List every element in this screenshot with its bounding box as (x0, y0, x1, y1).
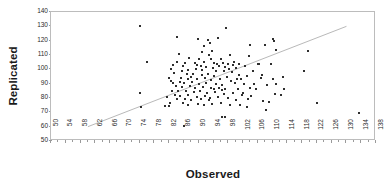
x-tick-mark (345, 140, 346, 143)
x-minor-tick-mark (323, 140, 324, 142)
x-tick-mark (50, 140, 51, 143)
x-tick-mark (198, 140, 199, 143)
x-tick-mark (360, 140, 361, 143)
x-minor-tick-mark (249, 140, 250, 142)
scatter-chart: Replicated 5060708090100110120130140 505… (0, 0, 392, 191)
x-minor-tick-mark (87, 140, 88, 142)
x-minor-tick-mark (190, 140, 191, 142)
x-tick-mark (375, 140, 376, 143)
x-axis-ticks: 5054586266707478828690949810210611011411… (0, 0, 392, 191)
x-minor-tick-mark (368, 140, 369, 142)
x-tick-mark (242, 140, 243, 143)
x-axis-title: Observed (50, 168, 376, 180)
x-minor-tick-mark (205, 140, 206, 142)
x-tick-mark (94, 140, 95, 143)
x-tick-mark (183, 140, 184, 143)
x-tick-label: 138 (378, 119, 385, 143)
x-tick-mark (124, 140, 125, 143)
x-minor-tick-mark (102, 140, 103, 142)
x-tick-mark (316, 140, 317, 143)
x-tick-mark (153, 140, 154, 143)
x-minor-tick-mark (176, 140, 177, 142)
x-minor-tick-mark (72, 140, 73, 142)
x-tick-mark (272, 140, 273, 143)
x-minor-tick-mark (353, 140, 354, 142)
x-tick-mark (139, 140, 140, 143)
x-minor-tick-mark (161, 140, 162, 142)
x-tick-mark (331, 140, 332, 143)
x-tick-mark (65, 140, 66, 143)
x-tick-mark (227, 140, 228, 143)
x-minor-tick-mark (294, 140, 295, 142)
x-minor-tick-mark (146, 140, 147, 142)
x-tick-mark (168, 140, 169, 143)
x-tick-mark (257, 140, 258, 143)
x-minor-tick-mark (309, 140, 310, 142)
x-tick-mark (109, 140, 110, 143)
x-minor-tick-mark (279, 140, 280, 142)
x-tick-mark (301, 140, 302, 143)
x-minor-tick-mark (131, 140, 132, 142)
x-minor-tick-mark (338, 140, 339, 142)
x-minor-tick-mark (220, 140, 221, 142)
x-minor-tick-mark (57, 140, 58, 142)
x-minor-tick-mark (264, 140, 265, 142)
x-tick-mark (213, 140, 214, 143)
x-tick-mark (80, 140, 81, 143)
x-minor-tick-mark (116, 140, 117, 142)
x-minor-tick-mark (235, 140, 236, 142)
x-tick-mark (286, 140, 287, 143)
